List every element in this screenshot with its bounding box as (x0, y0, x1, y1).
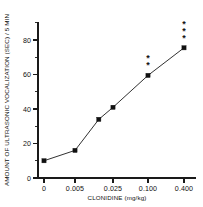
x-tick-label-0: 0 (42, 185, 46, 193)
data-series-line (44, 48, 184, 161)
y-tick-label-60: 60 (23, 71, 31, 79)
y-tick-label-80: 80 (23, 37, 31, 45)
significance-star-0100-b: * (146, 53, 150, 63)
y-tick-label-0: 0 (27, 175, 31, 183)
x-tick-label-0025: 0.025 (104, 185, 122, 193)
chart-figure: AMOUNT OF ULTRASONIC VOCALIZATION (SEC) … (0, 0, 203, 207)
data-point-0400 (182, 46, 186, 50)
x-tick-label-0005: 0.005 (66, 185, 84, 193)
data-point-0025 (111, 105, 115, 109)
dose-response-line-chart: AMOUNT OF ULTRASONIC VOCALIZATION (SEC) … (0, 0, 203, 207)
data-point-0100 (146, 73, 150, 77)
x-tick-label-0400: 0.400 (175, 185, 193, 193)
data-point-mid (97, 117, 101, 121)
y-tick-label-40: 40 (23, 106, 31, 114)
x-tick-label-0100: 0.100 (139, 185, 157, 193)
y-tick-label-20: 20 (23, 140, 31, 148)
significance-star-0400-c: * (182, 19, 186, 29)
data-point-0 (42, 159, 46, 163)
y-axis-title: AMOUNT OF ULTRASONIC VOCALIZATION (SEC) … (3, 14, 10, 186)
data-point-0005 (73, 148, 77, 152)
x-axis-title: CLONIDINE (mg/kg) (88, 194, 147, 201)
